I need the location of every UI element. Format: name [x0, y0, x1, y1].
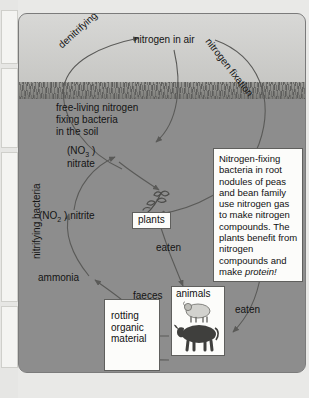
plants-label: plants	[138, 214, 165, 225]
rotting-line3: material	[111, 333, 159, 345]
label-free-living-line3: in the soil	[56, 126, 98, 138]
arrow-eaten-down	[161, 228, 183, 286]
label-ammonia: ammonia	[38, 272, 79, 284]
margin-fragment	[1, 306, 18, 368]
page-margin-strip	[0, 0, 18, 398]
sheep-and-cow-icon	[172, 298, 224, 354]
margin-fragment	[1, 68, 18, 148]
label-free-living-line1: free-living nitrogen	[56, 102, 138, 114]
info-callout-box: Nitrogen-fixing bacteria in root nodules…	[213, 148, 303, 282]
label-nitrogen-in-air: nitrogen in air	[134, 34, 195, 46]
nitrogen-cycle-diagram: nitrogen in air denitrifying bacteria ni…	[18, 13, 306, 373]
margin-fragment	[1, 10, 18, 64]
margin-fragment	[1, 152, 18, 302]
arrow-free-living-fixing	[156, 50, 178, 142]
label-free-living-line2: fixing bacteria	[56, 114, 118, 126]
label-eaten-right: eaten	[235, 304, 260, 316]
plants-box[interactable]: plants	[132, 212, 171, 229]
arrow-rotting-to-ammonia	[95, 280, 122, 300]
info-text: Nitrogen-fixing bacteria in root nodules…	[219, 153, 297, 277]
rotting-organic-material-box[interactable]: rotting organic material	[104, 299, 160, 371]
label-nitrate-name: nitrate	[67, 158, 95, 170]
label-eaten-left: eaten	[156, 242, 181, 254]
rotting-line2: organic	[111, 322, 159, 334]
rotting-line1: rotting	[111, 310, 159, 322]
label-nitrite: (NO2 ) nitrite	[39, 210, 95, 226]
info-emphasis: protein!	[245, 266, 277, 277]
animals-box[interactable]: animals	[171, 286, 225, 356]
plant-sprout-icon	[141, 186, 183, 214]
